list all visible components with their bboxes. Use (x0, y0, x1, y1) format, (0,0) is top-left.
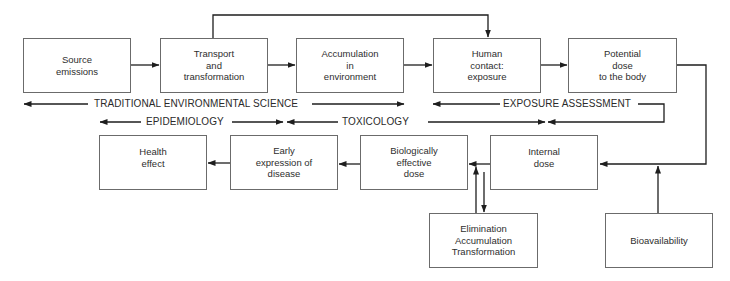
box-human-contact-exposure: Human contact: exposure (433, 38, 541, 93)
label-toxicology: TOXICOLOGY (340, 116, 411, 128)
label-traditional-environmental-science: TRADITIONAL ENVIRONMENTAL SCIENCE (92, 98, 300, 110)
box-early-expression-disease: Early expression of disease (230, 135, 338, 190)
box-bioavailability: Bioavailability (605, 213, 713, 268)
label-exposure-assessment: EXPOSURE ASSESSMENT (501, 98, 633, 110)
edge-transport-to-human-bypass (213, 15, 488, 38)
box-label: Transport and transformation (184, 48, 245, 83)
label-epidemiology: EPIDEMIOLOGY (144, 116, 226, 128)
box-biologically-effective-dose: Biologically effective dose (360, 135, 468, 190)
box-label: Human contact: exposure (467, 48, 506, 83)
box-label: Source emissions (56, 54, 98, 77)
box-accumulation-environment: Accumulation in environment (296, 38, 404, 93)
box-label: Elimination Accumulation Transformation (452, 223, 516, 258)
box-transport-transformation: Transport and transformation (160, 38, 268, 93)
box-label: Bioavailability (630, 235, 688, 247)
box-potential-dose: Potential dose to the body (568, 38, 677, 93)
box-source-emissions: Source emissions (23, 38, 131, 93)
box-health-effect: Health effect (99, 135, 207, 190)
box-label: Biologically effective dose (390, 145, 438, 180)
box-label: Accumulation in environment (321, 48, 378, 83)
box-elimination-accumulation-transformation: Elimination Accumulation Transformation (429, 213, 538, 268)
box-label: Early expression of disease (256, 145, 313, 180)
box-label: Internal dose (528, 146, 560, 169)
box-label: Health effect (139, 146, 166, 169)
box-label: Potential dose to the body (599, 48, 646, 83)
box-internal-dose: Internal dose (490, 135, 598, 190)
